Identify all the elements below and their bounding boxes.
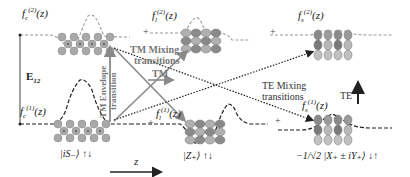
tm-envelope-label: TM Envelope transition	[98, 66, 118, 118]
te-arrow-label: TE	[340, 90, 352, 101]
tm-arrow-label: TM	[152, 68, 168, 79]
atom-cluster-s1	[314, 115, 352, 145]
energy-gap-label: E12	[26, 70, 40, 85]
atom-cluster-s2	[314, 30, 352, 60]
plus-sign-upper-1: +	[143, 26, 149, 37]
label-fl2: fl(2)(z)	[152, 8, 177, 24]
label-fc1: fc(1)(z)	[20, 104, 46, 120]
label-fl1: fl(1)(z)	[156, 106, 181, 122]
z-axis-label: z	[134, 155, 138, 167]
plus-sign-lower-2: +	[275, 115, 281, 126]
atom-cluster-l2	[181, 29, 221, 53]
atom-cluster-c1	[54, 120, 110, 142]
basis-state-s: |iS₋⟩ ↑↓	[60, 148, 92, 159]
basis-state-z: |Z₊⟩ ↑↓	[183, 150, 213, 161]
plus-sign-lower-1: +	[148, 117, 154, 128]
label-fs2: fs(2)(z)	[298, 8, 324, 24]
label-fc2: fc(2)(z)	[22, 6, 48, 22]
te-mixing-label: TE Mixing transitions	[262, 80, 306, 102]
basis-state-xy: −1/√2 |X₊ ± iY₊⟩ ↓↑	[296, 150, 378, 161]
plus-sign-upper-2: +	[270, 26, 276, 37]
atom-cluster-l1	[185, 120, 225, 144]
tm-mixing-label: TM Mixing transitions	[130, 44, 180, 66]
